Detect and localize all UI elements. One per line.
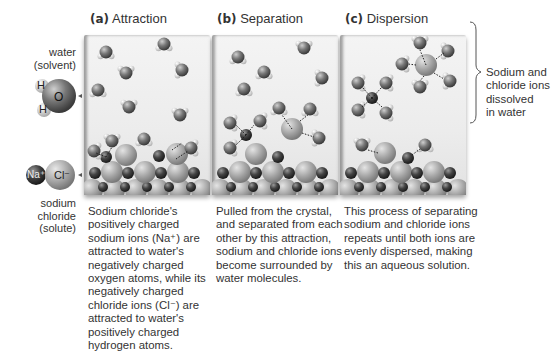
sodium-ion (226, 182, 236, 192)
panel-c-illustration (340, 35, 466, 195)
caption-line: positively charged (88, 218, 206, 231)
sodium-ion (444, 167, 456, 179)
water-molecule (138, 133, 151, 146)
chloride-ion (357, 161, 379, 183)
sodium-ion (316, 167, 328, 179)
caption-line: This process of separating (344, 205, 478, 218)
water-molecule (120, 67, 133, 80)
caption-line: attracted to water's (88, 312, 206, 325)
sodium-ion (354, 182, 364, 192)
sodium-ion (272, 151, 284, 163)
attraction-line (420, 76, 424, 81)
water-molecule (224, 117, 237, 130)
sodium-ion (442, 182, 452, 192)
caption-line: hydrogen atoms. (88, 339, 206, 352)
sodium-ion (217, 167, 229, 179)
caption-line: Pulled from the crystal, (216, 205, 343, 218)
sodium-ion (378, 167, 390, 179)
dissolved-label-line: dissolved (486, 93, 550, 106)
sodium-ion (292, 182, 302, 192)
water-molecule (254, 115, 267, 128)
sodium-ion (402, 152, 414, 164)
panel-b-title: (b) Separation (217, 11, 303, 26)
caption-line: sodium and chloride ions (216, 245, 343, 258)
caption-line: sodium ions (Na⁺) are (88, 232, 206, 245)
water-molecule (414, 37, 427, 50)
chloride-ion (423, 161, 445, 183)
panel-a-letter: (a) (90, 12, 109, 26)
panel-b-caption: Pulled from the crystal,and separated fr… (216, 205, 343, 285)
water-molecule (224, 142, 237, 155)
dissolved-ions-label: Sodium and chloride ions dissolved in wa… (486, 66, 550, 120)
water-pointer (78, 94, 82, 98)
panel-a-illustration (84, 35, 210, 195)
water-molecule (100, 46, 113, 59)
sodium-ion (420, 182, 430, 192)
sodium-ion (120, 182, 130, 192)
dissolved-label-line: in water (486, 106, 550, 119)
sodium-ion (186, 182, 196, 192)
chloride-ion (134, 161, 156, 183)
caption-line: water molecules. (216, 272, 343, 285)
panel-b-title-text: Separation (240, 11, 303, 26)
panel-a-caption: Sodium chloride'spositively chargedsodiu… (88, 205, 206, 352)
water-molecule (238, 83, 251, 96)
water-molecule (352, 104, 365, 117)
water-molecule (174, 109, 187, 122)
sodium-ion (89, 167, 101, 179)
caption-line: evenly dispersed, making (344, 245, 478, 258)
sodium-ion (411, 167, 423, 179)
dissolved-label-line: chloride ions (486, 79, 550, 92)
caption-line: oxygen atoms, while its (88, 272, 206, 285)
sodium-ion (283, 167, 295, 179)
panel-a-title: (a) Attraction (90, 11, 167, 26)
sodium-ion (98, 182, 108, 192)
water-molecule (304, 103, 317, 116)
sodium-ion (314, 182, 324, 192)
sodium-ion (122, 167, 134, 179)
chloride-ion (295, 161, 317, 183)
chloride-ion (229, 161, 251, 183)
sodium-ion (248, 182, 258, 192)
water-molecule (442, 45, 455, 58)
water-molecule (106, 135, 119, 148)
caption-line: this an aqueous solution. (344, 259, 478, 272)
sodium-ion (345, 167, 357, 179)
chloride-ion (101, 161, 123, 183)
sodium-ion (398, 182, 408, 192)
panel-a-title-text: Attraction (112, 11, 167, 26)
sodium-ion (164, 182, 174, 192)
caption-line: attracted to water's (88, 245, 206, 258)
caption-line: Sodium chloride's (88, 205, 206, 218)
caption-line: chloride ions (Cl⁻) are (88, 299, 206, 312)
panel-c-title-text: Dispersion (367, 11, 428, 26)
water-molecule (158, 38, 171, 51)
panel-b-illustration (212, 35, 338, 195)
panel-c-letter: (c) (345, 12, 363, 26)
caption-line: repeats until both ions are (344, 232, 478, 245)
water-molecule (92, 84, 105, 97)
caption-line: negatively charged (88, 259, 206, 272)
sodium-ion (155, 167, 167, 179)
caption-line: and separated from each (216, 218, 343, 231)
caption-line: other by this attraction, (216, 232, 343, 245)
sodium-chloride-solute-label: sodium chloride (solute) (8, 197, 76, 235)
sodium-ion (142, 182, 152, 192)
water-molecule (258, 66, 271, 79)
chloride-ion (245, 143, 267, 165)
water-molecule (380, 77, 393, 90)
sodium-ion (270, 182, 280, 192)
caption-line: negatively charged (88, 285, 206, 298)
chloride-label: chloride (8, 210, 76, 223)
legend-pointer-ticks (0, 0, 90, 200)
water-molecule (298, 42, 311, 55)
attraction-line (434, 73, 444, 79)
caption-line: positively charged (88, 326, 206, 339)
panel-c-title: (c) Dispersion (345, 11, 428, 26)
solute-label: (solute) (8, 222, 76, 235)
water-molecule (352, 77, 365, 90)
water-molecule (273, 102, 286, 115)
panel-b-letter: (b) (217, 12, 237, 26)
sodium-ion (188, 167, 200, 179)
water-molecule (356, 139, 369, 152)
